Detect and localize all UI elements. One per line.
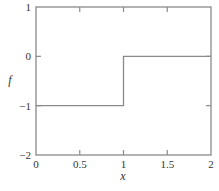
x-tick-label: 0.5 (73, 158, 87, 170)
step-function-chart: 00.511.52 −2−101 x f (0, 0, 219, 191)
x-axis-label: x (119, 169, 126, 183)
y-tick-label: 0 (26, 50, 32, 62)
y-axis-label: f (8, 73, 13, 87)
y-tick-label: −1 (19, 100, 31, 112)
data-line (36, 56, 211, 105)
x-tick-label: 1.5 (160, 158, 174, 170)
y-tick-label: −2 (19, 149, 31, 161)
y-tick-label: 1 (26, 1, 32, 13)
y-axis-ticks: −2−101 (19, 1, 211, 161)
x-tick-label: 2 (208, 158, 214, 170)
x-tick-label: 0 (33, 158, 39, 170)
